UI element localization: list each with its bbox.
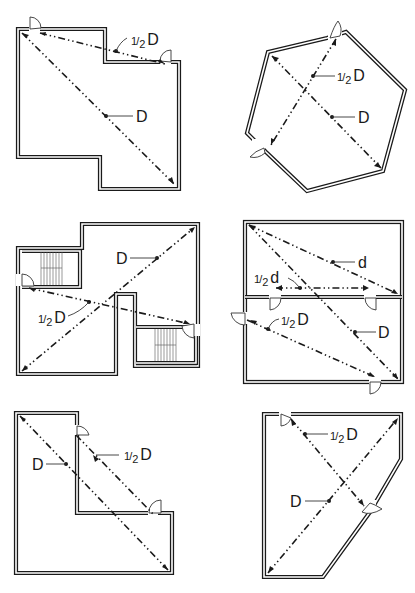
leader-line [268,319,279,329]
panel-4: d 1/2d 1/2D D [231,222,402,394]
d-label: D [378,324,390,341]
panel-5: D 1/2D [16,413,172,573]
leader-line [68,302,89,316]
half-d-line [40,33,165,64]
half-d-label: 1/2D [281,311,309,330]
door-swing [231,313,245,325]
half-small-d-label: 1/2d [254,269,279,288]
d-label: D [290,493,302,510]
door-swing [160,50,171,62]
panel-6: 1/2D D [264,411,401,577]
half-d-line [29,288,190,324]
door-swing [182,324,194,338]
panel-3: 1/2D D [16,224,200,374]
door-swing [77,426,89,435]
exit-separation-figure: 1/2D D 1/2D D [0,0,415,593]
d-label: D [358,109,370,126]
door-swing [22,274,34,286]
d-label: D [116,250,128,267]
half-d-line [271,39,336,145]
door-swing [149,500,161,513]
diagonal-d-line [20,416,168,570]
half-d-label: 1/2D [337,67,365,86]
half-d-label: 1/2D [131,31,159,50]
door-swing [330,21,341,38]
panel-1: 1/2D D [18,17,179,189]
leader-line [116,38,127,51]
door-swing [30,17,41,29]
half-d-label: 1/2D [38,309,66,328]
wall-outline [245,222,402,382]
half-d-label: 1/2D [330,426,358,445]
stair-icon [155,329,176,361]
wall-outline [16,413,172,573]
half-d-label: 1/2D [124,446,152,465]
stair-icon [41,252,62,285]
d-label: D [32,456,44,473]
panel-2: 1/2D D [247,21,405,191]
door-swing [270,298,281,310]
leader-line [288,278,300,288]
small-d-label: d [358,254,367,271]
door-swing [370,382,381,394]
door-swing [365,298,376,310]
wall-outline [18,29,179,189]
d-label: D [136,108,148,125]
